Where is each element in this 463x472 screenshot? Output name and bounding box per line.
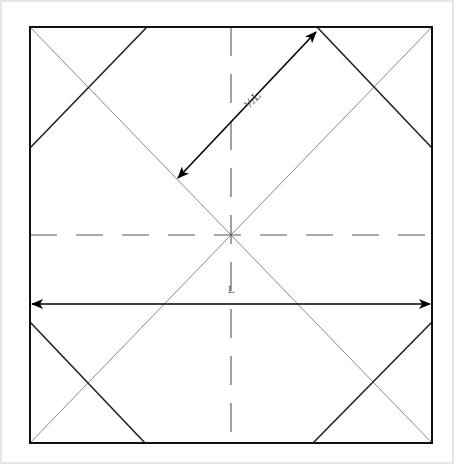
fold-diagram: ½L L [0, 0, 463, 472]
length-label: L [228, 284, 235, 295]
outer-frame [1, 1, 453, 463]
diagram-canvas: ½L L [0, 0, 463, 472]
